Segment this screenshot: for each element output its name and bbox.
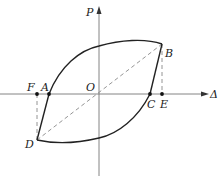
hysteresis-diagram: P Δ O A F B C E D	[0, 0, 222, 184]
y-axis-label: P	[85, 6, 94, 19]
label-B: B	[164, 47, 173, 60]
label-F: F	[26, 81, 35, 94]
lower-loading-curve	[37, 94, 150, 142]
origin-label: O	[86, 81, 95, 94]
dashed-line-DB	[37, 44, 162, 140]
upper-loading-curve	[49, 40, 162, 94]
label-E: E	[159, 98, 168, 111]
unloading-line-BC	[150, 44, 162, 94]
unloading-line-DA	[37, 94, 49, 140]
x-axis-arrow-icon	[201, 92, 209, 97]
label-C: C	[147, 98, 156, 111]
x-axis-label: Δ	[209, 88, 218, 101]
point-E	[160, 92, 164, 96]
y-axis-arrow-icon	[97, 6, 102, 14]
label-D: D	[24, 138, 34, 151]
point-C	[148, 92, 152, 96]
label-A: A	[40, 81, 49, 94]
point-F	[35, 92, 39, 96]
